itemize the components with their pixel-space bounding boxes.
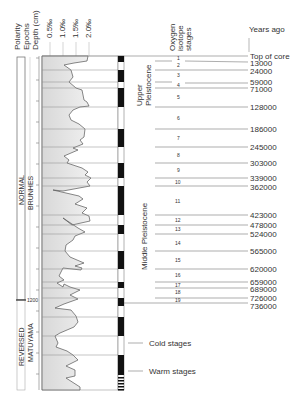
scale-2-0: 2.0‰ (84, 19, 93, 38)
stage-17: 17 (175, 282, 181, 288)
header-epochs: Epochs (22, 23, 31, 50)
age-71000: 71000 (250, 85, 273, 94)
age-303000: 303000 (250, 159, 277, 168)
stage-numbers: 1 2 3 4 5 6 7 8 9 10 11 12 13 14 15 16 1… (175, 55, 181, 303)
period-upper-line2: Pleistocene (144, 64, 153, 106)
depth-marker-1200: 1200 (27, 297, 38, 303)
stage-19: 19 (175, 297, 181, 303)
stage-16: 16 (175, 272, 181, 278)
stage-18: 18 (175, 289, 181, 295)
period-middle: Middle Pleistocene (140, 202, 149, 270)
stage-1: 1 (177, 55, 180, 61)
column-headers: Polarity Epochs Depth (cm) 0.5‰ 1.0‰ 1.5… (13, 10, 285, 52)
age-423000: 423000 (250, 211, 277, 220)
age-524000: 524000 (250, 230, 277, 239)
depth-axis (36, 56, 39, 390)
age-24000: 24000 (250, 67, 273, 76)
scale-1-0: 1.0‰ (58, 19, 67, 38)
legend: Cold stages Warm stages (128, 339, 196, 376)
age-labels: Top of core 13000 24000 59000 71000 1280… (250, 52, 290, 311)
epoch-brunhes: BRUNHES (27, 175, 34, 210)
epoch-matuyama: MATUYAMA (27, 323, 34, 362)
oxygen-isotope-diagram: Polarity Epochs Depth (cm) 0.5‰ 1.0‰ 1.5… (0, 0, 306, 397)
stage-4: 4 (177, 82, 180, 88)
age-689000: 689000 (250, 285, 277, 294)
legend-cold: Cold stages (149, 339, 191, 348)
isotope-curve (42, 56, 118, 390)
stage-3: 3 (177, 72, 180, 78)
polarity-column: NORMAL REVERSED (16, 57, 26, 390)
stage-2: 2 (177, 62, 180, 68)
header-years-ago: Years ago (249, 25, 285, 34)
polarity-normal: NORMAL (18, 175, 25, 205)
stage-13: 13 (175, 226, 181, 232)
age-245000: 245000 (250, 143, 277, 152)
header-depth: Depth (cm) (31, 10, 40, 50)
age-736000: 736000 (250, 302, 277, 311)
stage-12: 12 (175, 217, 181, 223)
stage-14: 14 (175, 240, 181, 246)
stage-bar-column (118, 56, 124, 391)
age-620000: 620000 (250, 265, 277, 274)
age-339000: 339000 (250, 174, 277, 183)
stage-9: 9 (177, 167, 180, 173)
epochs-column: BRUNHES MATUYAMA (27, 57, 34, 362)
scale-1-5: 1.5‰ (71, 19, 80, 38)
age-362000: 362000 (250, 183, 277, 192)
scale-0-5: 0.5‰ (45, 19, 54, 38)
stage-7: 7 (177, 135, 180, 141)
scale-ticks (50, 42, 89, 56)
age-186000: 186000 (250, 125, 277, 134)
stage-10: 10 (175, 179, 181, 185)
stage-15: 15 (175, 257, 181, 263)
stage-8: 8 (177, 152, 180, 158)
legend-warm: Warm stages (149, 367, 196, 376)
stage-5: 5 (177, 94, 180, 100)
stage-6: 6 (177, 115, 180, 121)
header-stages: stages (184, 27, 193, 51)
period-upper-line1: Upper (135, 84, 144, 106)
age-128000: 128000 (250, 103, 277, 112)
header-polarity: Polarity (13, 23, 22, 50)
age-478000: 478000 (250, 221, 277, 230)
age-565000: 565000 (250, 247, 277, 256)
stage-11: 11 (175, 198, 180, 204)
polarity-reversed: REVERSED (18, 327, 25, 366)
